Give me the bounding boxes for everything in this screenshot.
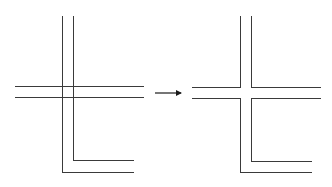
line-segment-bottom-right-path [251, 98, 321, 161]
line-segment-top-right-corner [251, 16, 321, 87]
before-crossing-diagram [15, 16, 144, 172]
line-segment-v-inner [73, 16, 134, 160]
after-merged-diagram [192, 16, 321, 172]
line-segment-top-left-corner [192, 16, 240, 87]
diagram-canvas [0, 0, 332, 187]
